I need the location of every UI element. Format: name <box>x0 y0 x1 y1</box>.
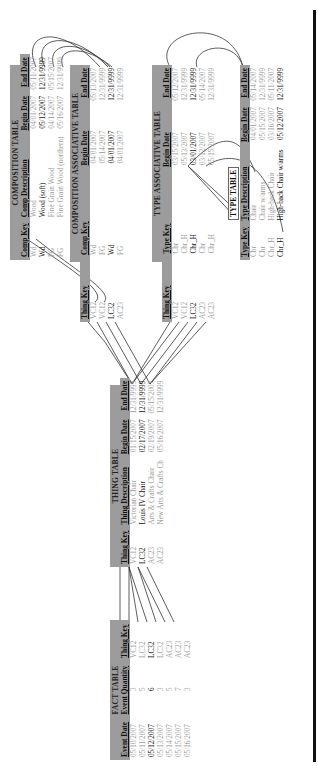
page-rule <box>313 10 316 762</box>
cell-begin-date: 03/16/2007 <box>268 104 277 145</box>
table-row: AC23Chr03/12/200705/14/2007 <box>199 65 208 322</box>
table-row: AC23Arts & Crafts Chair02/19/200705/15/2… <box>148 378 157 567</box>
table-row: AC23FG04/01/200712/31/9999 <box>117 65 126 322</box>
type-table: Type Key Type Description Begin Date End… <box>240 65 286 260</box>
cell-event-quantity: 7 <box>175 661 184 718</box>
column-header: Type Description <box>240 145 250 223</box>
cell-type-key: Chr_H <box>181 197 190 257</box>
table-row: ChrChair w/arms05/15/200712/31/9999 <box>259 65 268 260</box>
table-row: Chr_HHigh-back Chair03/16/200705/11/2007 <box>268 65 277 260</box>
cell-type-key: Chr_H <box>190 197 199 257</box>
cell-thing-description: Louis IV Chair <box>139 457 148 527</box>
cell-event-date: 05/11/2007 <box>139 717 148 760</box>
column-header: Comp Key <box>80 194 90 259</box>
cell-end-date: 12/31/9999 <box>181 65 190 129</box>
column-header: End Date <box>240 65 250 104</box>
fact-table: FACT TABLE Event Date Event Quantity Thi… <box>110 620 193 760</box>
thing-table: THING TABLE Thing Key Thing Description … <box>110 385 166 567</box>
cell-event-quantity: 3 <box>130 661 139 718</box>
cell-thing-key: AC23 <box>166 620 175 661</box>
cell-event-date: 05/10/2007 <box>130 717 139 760</box>
cell-end-date: 12/31/9999 <box>157 378 166 417</box>
column-header: Type Key <box>240 224 250 261</box>
cell-event-date: 05/16/2007 <box>184 717 193 760</box>
composition-table: COMPOSITION TABLE Comp Key Comp Descript… <box>10 65 66 260</box>
cell-end-date: 05/11/2007 <box>268 65 277 104</box>
table-row: VC12Chr_H05/13/200712/31/9999 <box>181 65 190 322</box>
cell-comp-key: Wd <box>39 220 48 260</box>
cell-thing-key: AC23 <box>184 620 193 661</box>
cell-end-date: 05/14/2007 <box>199 65 208 129</box>
cell-comp-description: Wood <box>30 134 39 221</box>
table-row: AC23Chr_H05/15/200712/31/9999 <box>208 65 217 322</box>
cell-type-key: Chr <box>199 197 208 257</box>
cell-begin-date: 04/01/2007 <box>30 93 39 134</box>
cell-end-date: 05/12/2007 <box>172 65 181 129</box>
cell-end-date: 12/31/9999 <box>99 65 108 128</box>
column-header: Thing Description <box>120 457 130 527</box>
cell-thing-key: AC23 <box>157 528 166 567</box>
cell-comp-key: FG <box>57 220 66 260</box>
cell-begin-date: 02/19/2007 <box>148 417 157 458</box>
cell-comp-key: Wd <box>108 194 117 259</box>
cell-thing-key: VC12 <box>90 258 99 322</box>
cell-begin-date: 04/01/2007 <box>250 104 259 145</box>
cell-thing-key: LC32 <box>157 620 166 661</box>
cell-begin-date: 05/15/2007 <box>259 104 268 145</box>
table-row: VC12Chr03/15/200705/12/2007 <box>172 65 181 322</box>
column-header: End Date <box>120 378 130 417</box>
column-header: Event Quantity <box>120 661 130 718</box>
cell-begin-date: 03/12/2007 <box>199 129 208 196</box>
cell-begin-date: 05/15/2007 <box>208 129 217 196</box>
cell-thing-key: VC12 <box>99 258 108 322</box>
cell-end-date: 05/15/2007 <box>48 54 57 93</box>
column-header: Begin Date <box>20 93 30 134</box>
cell-comp-key: Wd <box>30 220 39 260</box>
cell-type-description: High-back Chair <box>268 145 277 223</box>
cell-thing-key: AC23 <box>175 620 184 661</box>
table-row: LC32Wd04/01/200712/31/9999 <box>108 65 117 322</box>
cell-comp-key: Wd <box>90 194 99 259</box>
cell-type-description: Chair <box>250 145 259 223</box>
column-header: End Date <box>80 65 90 128</box>
cell-comp-key: FG <box>117 194 126 259</box>
column-header: End Date <box>162 65 172 129</box>
table-row: ChrChair04/01/200705/14/2007 <box>250 65 259 260</box>
cell-thing-key: LC32 <box>139 528 148 567</box>
cell-end-date: 05/15/2007 <box>148 378 157 417</box>
table-row: 05/12/20076LC32 <box>148 620 157 760</box>
cell-end-date: 12/31/9999 <box>139 378 148 417</box>
cell-end-date: 12/31/9999 <box>277 65 286 104</box>
column-header: Thing Key <box>120 528 130 567</box>
cell-begin-date: 05/16/2007 <box>57 93 66 134</box>
cell-event-quantity: 5 <box>166 661 175 718</box>
cell-begin-date: 03/01/2007 <box>190 129 199 196</box>
table-row: WdWood (soft)05/12/200712/31/9999 <box>39 54 48 260</box>
column-header: Comp Key <box>20 220 30 260</box>
cell-begin-date: 05/16/2007 <box>157 417 166 458</box>
cell-comp-description: Wood (soft) <box>39 134 48 221</box>
cell-end-date: 12/31/9999 <box>259 65 268 104</box>
cell-begin-date: 01/15/2007 <box>130 417 139 458</box>
column-header: End Date <box>20 54 30 93</box>
cell-begin-date: 04/14/2007 <box>48 93 57 134</box>
table-row: VC12FG05/14/200712/31/9999 <box>99 65 108 322</box>
table-title: COMPOSITION TABLE <box>10 65 20 260</box>
cell-type-key: Chr_H <box>208 197 217 257</box>
table-row: VC12Victorian Chair01/15/200712/31/9999 <box>130 378 139 567</box>
cell-thing-key: AC23 <box>148 528 157 567</box>
cell-end-date: 05/13/2007 <box>90 65 99 128</box>
cell-thing-key: VC12 <box>172 257 181 322</box>
cell-begin-date: 02/17/2007 <box>139 417 148 458</box>
table-title: COMPOSITION ASSOCIATIVE TABLE <box>70 65 80 262</box>
cell-begin-date: 05/14/2007 <box>99 128 108 194</box>
cell-event-quantity: 5 <box>139 661 148 718</box>
table-row: 05/10/20073VC12 <box>130 620 139 760</box>
table-row: FGFine Grain Wood04/14/200705/15/2007 <box>48 54 57 260</box>
cell-type-key: Chr <box>172 197 181 257</box>
cell-thing-key: LC32 <box>148 620 157 661</box>
cell-type-key: Chr <box>259 224 268 261</box>
cell-event-date: 05/14/2007 <box>166 717 175 760</box>
table-row: WdWood04/01/200705/11/2007 <box>30 54 39 260</box>
column-header: Begin Date <box>120 417 130 458</box>
